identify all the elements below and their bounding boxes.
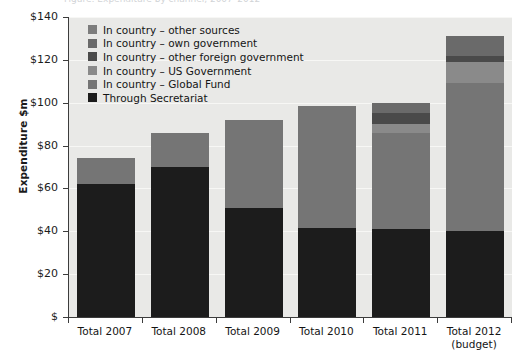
x-axis-tick [216,317,217,323]
bar-segment [298,106,356,228]
x-axis-tick-label-line: (budget) [419,338,519,351]
x-axis-tick [290,317,291,323]
legend-swatch-icon [88,93,97,102]
y-axis-tick-label: $40 [0,224,58,237]
x-axis-tick [68,317,69,323]
bar-segment [298,228,356,317]
chart-title-text: Figure: Expenditure by channel, 2007–201… [0,0,260,3]
legend-swatch-icon [88,25,97,34]
bar-segment [372,229,430,317]
x-axis-tick [142,317,143,323]
bar-segment [446,83,504,231]
chart-title-sliver: Figure: Expenditure by channel, 2007–201… [0,0,519,8]
bar-segment [446,231,504,317]
x-axis-tick [363,317,364,323]
bar-segment [225,208,283,317]
y-axis-tick [63,188,69,189]
legend-item[interactable]: In country – Global Fund [88,77,304,91]
legend-item-label: Through Secretariat [103,92,208,104]
bar-total-2011[interactable] [372,103,430,317]
bar-segment [77,158,135,184]
legend-swatch-icon [88,39,97,48]
gridline [69,17,512,18]
bar-segment [446,62,504,83]
legend-item[interactable]: In country – own government [88,37,304,51]
y-axis-tick-label: $80 [0,139,58,152]
bar-segment [151,167,209,317]
bar-total-2008[interactable] [151,133,209,317]
bar-total-2009[interactable] [225,120,283,317]
bar-segment [77,184,135,317]
y-axis-tick [63,17,69,18]
legend-item-label: In country – own government [103,37,257,49]
y-axis-tick [63,274,69,275]
legend-item-label: In country – other foreign government [103,51,304,63]
legend-item[interactable]: In country – other foreign government [88,50,304,64]
legend-swatch-icon [88,52,97,61]
chart-legend: In country – other sourcesIn country – o… [88,23,304,105]
bar-total-2007[interactable] [77,158,135,317]
x-axis-tick-label: Total 2012(budget) [419,325,519,351]
bar-segment [446,36,504,55]
legend-item-label: In country – US Government [103,65,251,77]
y-axis-tick-label: $140 [0,10,58,23]
legend-swatch-icon [88,80,97,89]
y-axis-tick [63,146,69,147]
legend-swatch-icon [88,66,97,75]
y-axis-tick [63,60,69,61]
legend-item[interactable]: Through Secretariat [88,91,304,105]
bar-segment [151,133,209,167]
legend-item-label: In country – other sources [103,24,240,36]
y-axis-tick-label: $20 [0,267,58,280]
bar-total-2010[interactable] [298,106,356,317]
bar-segment [372,124,430,133]
bar-segment [372,133,430,229]
y-axis-tick-label: $60 [0,181,58,194]
legend-item-label: In country – Global Fund [103,78,230,90]
y-axis-tick-label: $ [0,310,58,323]
legend-item[interactable]: In country – US Government [88,64,304,78]
y-axis-tick-label: $100 [0,96,58,109]
y-axis-tick-label: $120 [0,53,58,66]
bar-segment [225,120,283,208]
bar-segment [372,113,430,124]
bar-segment [372,103,430,114]
y-axis-tick [63,103,69,104]
x-axis-tick [511,317,512,323]
legend-item[interactable]: In country – other sources [88,23,304,37]
bar-total-2012-budget[interactable] [446,36,504,317]
y-axis-tick [63,231,69,232]
x-axis-tick [437,317,438,323]
x-axis-tick-label-line: Total 2012 [419,325,519,338]
